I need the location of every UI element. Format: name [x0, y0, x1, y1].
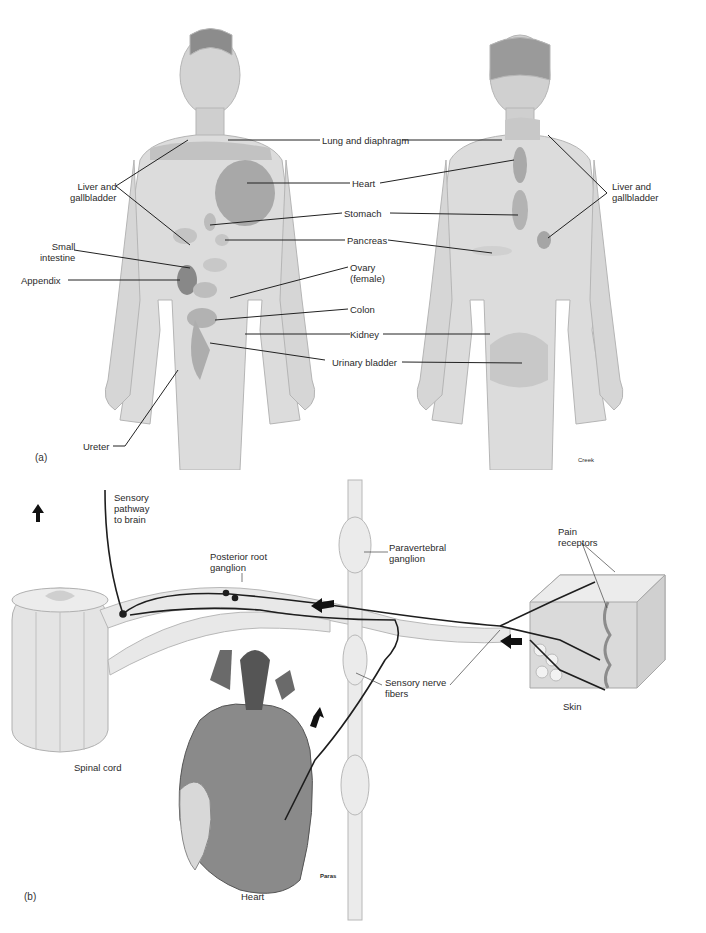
label-posterior-root-ganglion: Posterior root ganglion: [210, 551, 267, 573]
label-sensory-nerve-fibers: Sensory nerve fibers: [385, 677, 446, 699]
label-line: ganglion: [210, 562, 267, 573]
spinal-cord-illustration: [12, 588, 108, 752]
label-lung-and-diaphragm: Lung and diaphragm: [322, 135, 409, 146]
label-line: Sensory nerve: [385, 677, 446, 688]
label-skin: Skin: [563, 701, 581, 712]
label-appendix: Appendix: [21, 275, 61, 286]
label-line: gallbladder: [70, 192, 116, 203]
label-liver-gallbladder-front: Liver and gallbladder: [70, 181, 116, 203]
label-urinary-bladder: Urinary bladder: [332, 357, 397, 368]
direction-arrows: [32, 504, 522, 728]
label-paravertebral-ganglion: Paravertebral ganglion: [389, 542, 446, 564]
label-pancreas: Pancreas: [347, 235, 387, 246]
label-line: receptors: [558, 537, 598, 548]
label-line: Pain: [558, 526, 598, 537]
label-small-intestine: Small intestine: [40, 241, 75, 263]
label-line: Liver and: [70, 181, 116, 192]
front-body-figure: [105, 29, 315, 471]
label-line: Liver and: [612, 181, 658, 192]
sensory-nerve-fibers: [105, 490, 605, 820]
label-line: fibers: [385, 688, 446, 699]
arrow-left-icon: [500, 634, 522, 649]
label-line: Sensory: [114, 492, 149, 503]
nerve-trunk: [100, 588, 510, 676]
credit-creek: Creek: [578, 455, 594, 466]
label-line: intestine: [40, 252, 75, 263]
label-stomach: Stomach: [344, 208, 382, 219]
skin-block: [530, 575, 665, 688]
label-line: Small: [40, 241, 75, 252]
label-line: ganglion: [389, 553, 446, 564]
back-body-figure: [417, 35, 623, 470]
label-line: Paravertebral: [389, 542, 446, 553]
arrow-up-icon: [32, 504, 44, 522]
label-spinal-cord: Spinal cord: [74, 762, 122, 773]
panel-b-tag: (b): [24, 891, 36, 902]
label-line: Posterior root: [210, 551, 267, 562]
heart-illustration: [179, 650, 312, 893]
label-line: to brain: [114, 514, 149, 525]
label-line: pathway: [114, 503, 149, 514]
arrow-left-icon: [311, 598, 334, 613]
label-colon: Colon: [350, 304, 375, 315]
label-sensory-pathway-to-brain: Sensory pathway to brain: [114, 492, 149, 525]
label-ovary: Ovary (female): [350, 262, 385, 284]
leader-lines-b: [242, 543, 615, 685]
panel-a-tag: (a): [35, 452, 47, 463]
label-liver-gallbladder-back: Liver and gallbladder: [612, 181, 658, 203]
label-ureter: Ureter: [83, 441, 109, 452]
label-line: gallbladder: [612, 192, 658, 203]
label-line: (female): [350, 273, 385, 284]
arrow-up-right-icon: [310, 707, 324, 728]
label-kidney: Kidney: [350, 329, 379, 340]
label-pain-receptors: Pain receptors: [558, 526, 598, 548]
sympathetic-chain: [339, 480, 371, 920]
credit-paras: Paras: [320, 871, 336, 882]
label-heart-a: Heart: [352, 178, 375, 189]
label-heart-b: Heart: [241, 891, 264, 902]
label-line: Ovary: [350, 262, 385, 273]
